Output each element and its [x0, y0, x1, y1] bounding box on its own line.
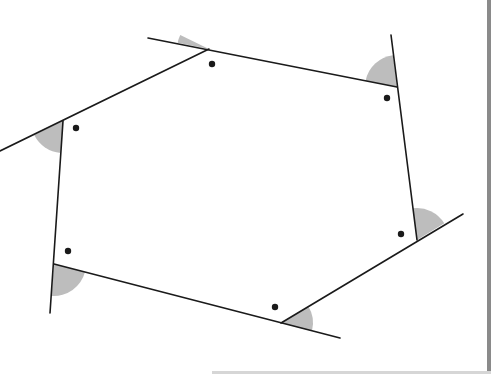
- interior-angle-dot-F: [73, 125, 79, 131]
- side-line-3: [281, 214, 463, 323]
- side-line-2: [391, 35, 417, 240]
- interior-angle-dot-B: [384, 95, 390, 101]
- side-line-4: [54, 264, 340, 338]
- side-line-1: [148, 38, 397, 87]
- exterior-angle-shades: [34, 35, 444, 331]
- exterior-angle-E: [52, 264, 85, 296]
- exterior-angle-F: [34, 121, 63, 153]
- page-edge-shadow: [487, 0, 491, 374]
- side-line-6: [0, 49, 209, 151]
- interior-angle-dots: [65, 61, 404, 310]
- interior-angle-dot-D: [272, 304, 278, 310]
- interior-angle-dot-C: [398, 231, 404, 237]
- interior-angle-dot-A: [209, 61, 215, 67]
- interior-angle-dot-E: [65, 248, 71, 254]
- hexagon-exterior-angles-diagram: [0, 0, 491, 374]
